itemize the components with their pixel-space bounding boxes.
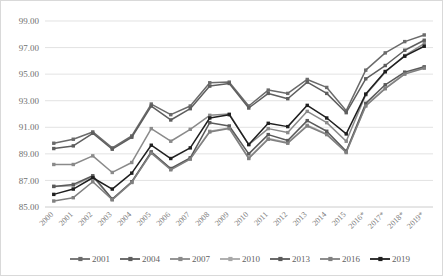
data-point-marker [345,151,348,154]
legend-marker [378,257,382,261]
data-point-marker [130,181,133,184]
x-axis-tick-labels: 2000200120022003200420052006200720082009… [38,210,426,231]
legend-item-2013[interactable]: 2013 [270,254,311,264]
data-point-marker [325,121,328,124]
data-point-marker [52,199,55,202]
legend-marker [128,257,132,261]
data-point-marker [306,119,309,122]
legend-label: 2004 [142,254,161,264]
data-point-marker [72,183,75,186]
data-point-marker [267,127,270,130]
data-point-marker [189,107,192,110]
x-tick-label: 2009 [213,210,231,228]
data-series-lines [52,33,426,202]
legend-item-2004[interactable]: 2004 [120,254,161,264]
data-point-marker [228,113,231,116]
legend-item-2010[interactable]: 2010 [220,254,261,264]
data-point-marker [169,168,172,171]
data-point-marker [150,144,153,147]
data-point-marker [267,133,270,136]
data-point-marker [130,171,133,174]
data-point-marker [228,127,231,130]
data-point-marker [364,68,367,71]
data-point-marker [325,133,328,136]
data-point-marker [267,138,270,141]
data-point-marker [72,163,75,166]
data-point-marker [403,49,406,52]
legend-item-2016[interactable]: 2016 [320,254,361,264]
x-tick-label: 2016* [347,210,368,231]
data-point-marker [325,86,328,89]
series-line [54,68,424,201]
data-point-marker [169,113,172,116]
y-tick-label: 95.00 [19,69,40,79]
data-point-marker [403,72,406,75]
data-point-marker [247,143,250,146]
data-point-marker [91,176,94,179]
x-tick-label: 2010 [232,210,250,228]
legend-item-2007[interactable]: 2007 [170,254,211,264]
data-point-marker [384,83,387,86]
data-point-marker [345,132,348,135]
data-point-marker [91,132,94,135]
data-point-marker [52,193,55,196]
data-point-marker [267,88,270,91]
data-point-marker [130,161,133,164]
chart-plot-area: 99.0097.0095.0093.0091.0089.0087.0085.00… [1,1,443,276]
x-tick-label: 2018* [386,210,407,231]
data-point-marker [247,157,250,160]
data-point-marker [384,51,387,54]
y-tick-label: 93.00 [19,96,40,106]
gridlines [45,21,433,207]
series-line [54,68,424,200]
x-tick-label: 2011 [252,210,269,227]
data-point-marker [423,45,426,48]
x-tick-label: 2014 [310,210,328,228]
series-2007 [52,42,426,174]
legend-label: 2019 [392,254,411,264]
data-point-marker [130,136,133,139]
legend-label: 2010 [242,254,261,264]
data-point-marker [169,140,172,143]
y-tick-label: 85.00 [19,202,40,212]
x-tick-label: 2006 [154,210,172,228]
data-point-marker [189,146,192,149]
data-point-marker [72,144,75,147]
legend-item-2019[interactable]: 2019 [370,254,411,264]
data-point-marker [286,131,289,134]
data-point-marker [384,64,387,67]
y-tick-label: 89.00 [19,149,40,159]
x-tick-label: 2004 [116,210,134,228]
legend-label: 2001 [92,254,110,264]
x-tick-label: 2005 [135,210,153,228]
data-point-marker [345,140,348,143]
series-line [54,67,424,199]
data-point-marker [91,154,94,157]
x-tick-label: 2008 [193,210,211,228]
data-point-marker [286,125,289,128]
data-point-marker [52,147,55,150]
data-point-marker [306,104,309,107]
data-point-marker [150,151,153,154]
legend-marker [328,257,332,261]
data-point-marker [208,116,211,119]
legend-marker [228,257,232,261]
x-tick-label: 2002 [77,210,95,228]
data-point-marker [325,130,328,133]
data-point-marker [52,142,55,145]
legend-label: 2016 [342,254,361,264]
data-point-marker [91,180,94,183]
legend-marker [78,257,82,261]
data-point-marker [111,171,114,174]
data-point-marker [325,116,328,119]
data-point-marker [208,81,211,84]
data-point-marker [325,92,328,95]
legend-item-2001[interactable]: 2001 [70,254,110,264]
x-tick-label: 2000 [38,210,56,228]
data-point-marker [267,92,270,95]
data-point-marker [52,163,55,166]
x-tick-label: 2001 [57,210,75,228]
legend-label: 2013 [292,254,311,264]
data-point-marker [267,122,270,125]
y-tick-label: 91.00 [19,122,40,132]
